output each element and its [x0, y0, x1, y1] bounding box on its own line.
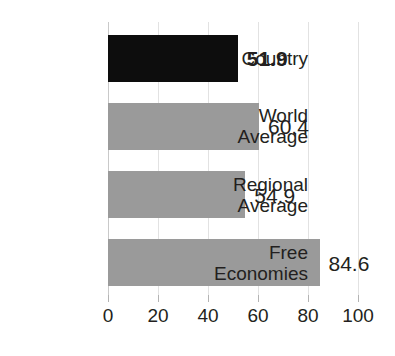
x-tick-60: [258, 295, 259, 302]
category-label: Country: [158, 48, 308, 69]
bar-row: 60.4World Average: [108, 103, 395, 150]
x-tick-20: [158, 295, 159, 302]
bar-value-label: 84.6: [329, 252, 370, 273]
plot-area: 02040608010051.9Country60.4World Average…: [108, 22, 358, 295]
x-tick-0: [108, 295, 109, 302]
x-tick-40: [208, 295, 209, 302]
x-tick-label-100: 100: [328, 305, 388, 327]
bar-row: 51.9Country: [108, 35, 395, 82]
chart-title-cropped: [0, 0, 395, 11]
category-label: World Average: [158, 105, 308, 147]
bar-chart: 02040608010051.9Country60.4World Average…: [0, 0, 395, 356]
category-label: Regional Average: [158, 174, 308, 216]
x-tick-100: [358, 295, 359, 302]
bar-row: 84.6Free Economies: [108, 239, 395, 286]
x-tick-80: [308, 295, 309, 302]
bar-row: 54.9Regional Average: [108, 171, 395, 218]
category-label: Free Economies: [158, 242, 308, 284]
